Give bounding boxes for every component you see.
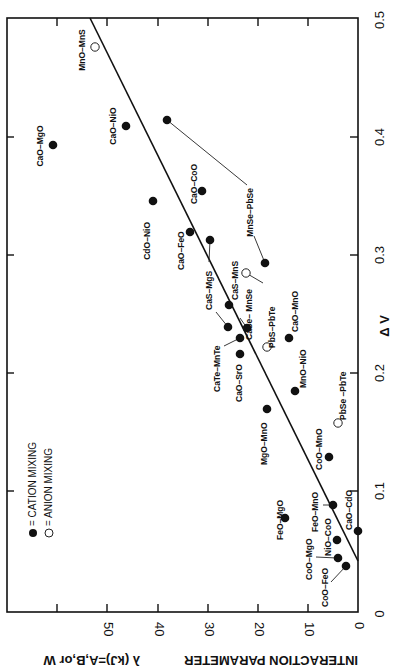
dv-tick-labels: 0 0.1 0.2 0.3 0.4 0.5 — [372, 11, 387, 618]
tick-label-lambda-0: 0 — [352, 622, 367, 629]
point-CoO-MgO — [334, 554, 343, 563]
label-CoO-FeO: CoO–FeO — [320, 567, 330, 607]
point-CaTe-MnTe — [236, 334, 245, 343]
legend-anion-label: = ANION MIXING — [43, 448, 54, 526]
point-CdO-NiO — [149, 197, 158, 206]
label-PbS-PbTe: PbS–PbTe — [267, 306, 277, 348]
label-CaS-MgS: CaS–MgS — [204, 270, 214, 310]
label-CaO-SrO: CaO–SrO — [234, 364, 244, 402]
legend-filled-circle-icon — [29, 529, 37, 537]
label-CaO-FeO: CaO–FeO — [176, 231, 186, 270]
label-PbSe-PbTe: PbSe –PbTe — [338, 371, 348, 420]
tick-label-dv-0.4: 0.4 — [372, 128, 387, 146]
tick-label-dv-0.5: 0.5 — [372, 11, 387, 29]
label-MnO-MnS: MnO–MnS — [77, 29, 87, 71]
label-MgO-MnO: MgO–MnO — [259, 422, 269, 465]
label-MnO-NiO: MnO–NiO — [298, 349, 308, 388]
label-FeO-MgO: FeO–MgO — [275, 499, 285, 540]
point-CaO-FeO — [186, 228, 195, 237]
label-CdO-NiO: CdO–NiO — [142, 222, 152, 260]
point-MgO-MnO — [263, 405, 272, 414]
label-NiO-CoO: NiO–CoO — [323, 518, 333, 556]
label-CaO-CdO: CaO–CdO — [344, 489, 354, 530]
label-CaSe-MnSe: CaSe– MnSe — [244, 289, 254, 340]
point-CaS-MgS-lower — [224, 323, 233, 332]
point-PbS-PbTe-upper — [242, 269, 250, 277]
point-NiO-CoO — [333, 536, 342, 545]
label-CaO-CoO: CaO–CoO — [189, 164, 199, 205]
tick-label-dv-0: 0 — [372, 610, 387, 617]
scatter-chart: 0 0.1 0.2 0.3 0.4 0.5 Δ V 0 10 20 30 40 … — [0, 0, 395, 670]
tick-label-lambda-40: 40 — [152, 622, 167, 636]
label-FeO-MnO: FeO–MnO — [310, 491, 320, 532]
tick-label-dv-0.3: 0.3 — [372, 246, 387, 264]
point-CaO-MgO — [49, 141, 58, 150]
tick-label-lambda-30: 30 — [202, 622, 217, 636]
point-FeO-MnO — [329, 501, 338, 510]
tick-label-lambda-20: 20 — [252, 622, 267, 636]
regression-line — [90, 18, 358, 561]
lambda-axis-units: λ (kJ)=A,B,or W — [43, 653, 140, 668]
legend-open-circle-icon — [45, 529, 53, 537]
label-CaO-MnO: CaO–MnO — [290, 291, 300, 332]
label-CaO-MgO: CaO–MgO — [35, 125, 45, 166]
tick-label-lambda-50: 50 — [101, 622, 116, 636]
label-CaO-NiO: CaO–NiO — [108, 107, 118, 145]
label-CaS-MnS: CaS–MnS — [230, 260, 240, 300]
dv-axis-ticks — [7, 137, 358, 491]
label-MnSe-PbSe: MnSe–PbSe — [245, 188, 255, 237]
point-MnSe-PbSe-upper — [163, 116, 172, 125]
tick-label-lambda-10: 10 — [302, 622, 317, 636]
label-CoO-MnO: CoO–MnO — [314, 428, 324, 470]
point-CaO-NiO — [122, 122, 131, 131]
point-CaS-MgS-upper — [206, 236, 215, 245]
point-CaO-CdO — [354, 527, 363, 536]
dv-axis-label: Δ V — [377, 315, 392, 337]
label-CoO-MgO: CoO–MgO — [304, 538, 314, 580]
point-CaO-SrO — [236, 350, 245, 359]
point-CaO-MnO — [285, 334, 294, 343]
point-CoO-MnO — [325, 453, 334, 462]
plot-frame — [7, 18, 358, 612]
point-CoO-FeO — [342, 562, 351, 571]
label-CaTe-MnTe: CaTe–MnTe — [212, 345, 222, 392]
lambda-tick-labels: 0 10 20 30 40 50 — [101, 622, 367, 636]
point-labels: MnO–MnS CaO–NiO CaO–MgO CaO–CoO CdO–NiO … — [35, 29, 354, 607]
lambda-axis-label: INTERACTION PARAMETER — [184, 653, 358, 668]
tick-label-dv-0.2: 0.2 — [372, 364, 387, 382]
legend-cation-label: = CATION MIXING — [27, 442, 38, 526]
point-CaS-MnS — [225, 301, 234, 310]
point-MnO-MnS — [91, 43, 99, 51]
tick-label-dv-0.1: 0.1 — [372, 482, 387, 500]
legend: = CATION MIXING = ANION MIXING — [27, 442, 54, 537]
point-MnSe-PbSe-lower — [261, 259, 270, 268]
